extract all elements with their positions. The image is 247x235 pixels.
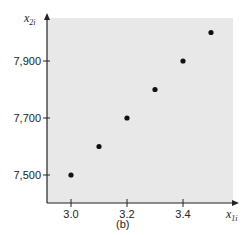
data-point — [96, 144, 101, 149]
y-ticks: 7,5007,7007,900 — [13, 55, 50, 181]
data-point — [124, 115, 129, 120]
x-axis-arrow-icon — [232, 200, 239, 206]
y-tick-label: 7,900 — [13, 55, 41, 67]
x-tick-label: 3.0 — [63, 208, 78, 220]
scatter-chart: 3.03.23.4 7,5007,7007,900 x2i x1i (b) — [0, 0, 247, 235]
data-point — [208, 30, 213, 35]
data-point — [180, 58, 185, 63]
data-point — [68, 172, 73, 177]
y-tick-label: 7,700 — [13, 112, 41, 124]
x-axis-label: x1i — [225, 207, 238, 223]
figure-caption: (b) — [116, 218, 129, 230]
y-axis-arrow-icon — [44, 13, 50, 20]
x-tick-label: 3.4 — [175, 208, 190, 220]
data-point — [152, 87, 157, 92]
y-tick-label: 7,500 — [13, 169, 41, 181]
plot-area — [47, 18, 233, 203]
y-axis-label: x2i — [23, 11, 36, 27]
